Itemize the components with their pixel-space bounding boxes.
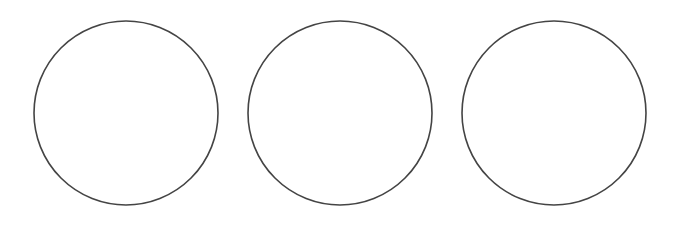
circles-diagram	[0, 0, 676, 228]
diagram-canvas	[0, 0, 676, 228]
circle-2	[248, 21, 432, 205]
circle-3	[462, 21, 646, 205]
circle-1	[34, 21, 218, 205]
